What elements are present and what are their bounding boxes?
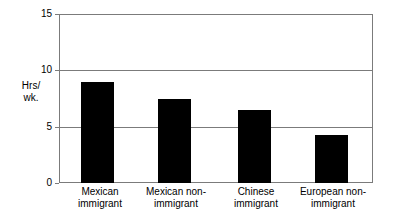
ytick-mark-15 [55, 14, 59, 15]
x-label-chinese-immigrant: Chinese immigrant [214, 186, 298, 210]
bar-european-non-immigrant [315, 135, 348, 183]
ytick-label-15: 15 [22, 9, 52, 19]
ytick-mark-5 [55, 127, 59, 128]
ytick-mark-10 [55, 70, 59, 71]
x-label-line-2: immigrant [214, 198, 298, 210]
bar-mexican-immigrant [81, 82, 114, 183]
ytick-label-5: 5 [22, 122, 52, 132]
x-label-line-1: Chinese [214, 186, 298, 198]
x-label-mexican-non-immigrant: Mexican non- immigrant [131, 186, 221, 210]
x-label-european-non-immigrant: European non- immigrant [287, 186, 379, 210]
y-axis-title: Hrs/ wk. [8, 80, 54, 104]
x-axis-labels: Mexican immigrant Mexican non- immigrant… [59, 186, 373, 218]
x-label-line-2: immigrant [131, 198, 221, 210]
bars-layer [60, 15, 372, 183]
bar-chart: 15 10 5 0 Hrs/ wk. Mexican immigrant Mex… [0, 0, 393, 221]
ytick-mark-0 [55, 183, 59, 184]
bar-mexican-non-immigrant [158, 99, 191, 183]
x-label-line-1: European non- [287, 186, 379, 198]
y-axis-title-line-1: Hrs/ [8, 80, 54, 92]
bar-chinese-immigrant [238, 110, 271, 183]
x-label-line-1: Mexican non- [131, 186, 221, 198]
ytick-label-0: 0 [22, 178, 52, 188]
y-axis-title-line-2: wk. [8, 92, 54, 104]
ytick-label-10: 10 [22, 65, 52, 75]
x-label-line-2: immigrant [287, 198, 379, 210]
